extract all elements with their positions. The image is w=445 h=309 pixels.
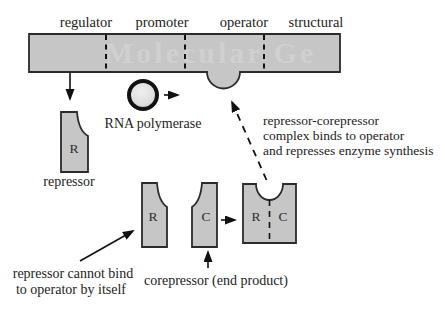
cannot-bind-arrow — [80, 231, 133, 261]
watermark-text: Molecular Ge — [105, 36, 316, 69]
gene-regulation-diagram: regulator promoter operator structural M… — [0, 0, 445, 309]
complex-c-letter: C — [278, 209, 287, 224]
corepressor-caption: corepressor (end product) — [144, 273, 288, 289]
repressor-letter: R — [69, 141, 78, 156]
complex-note-line3: and represses enzyme synthesis — [263, 143, 434, 158]
repressor-bottom-letter: R — [148, 209, 157, 224]
complex-to-operator-dashed-arrow — [232, 102, 267, 180]
region-label-regulator: regulator — [60, 14, 113, 30]
cannot-bind-line1: repressor cannot bind — [13, 266, 134, 281]
corepressor-letter: C — [201, 209, 210, 224]
region-label-structural: structural — [289, 14, 344, 30]
complex-note-line1: repressor-corepressor — [263, 113, 379, 128]
complex-note-line2: complex binds to operator — [263, 128, 405, 143]
diagram-canvas: regulator promoter operator structural M… — [0, 0, 445, 309]
region-label-promoter: promoter — [135, 14, 188, 30]
region-label-operator: operator — [220, 14, 268, 30]
rna-polymerase-icon — [129, 81, 157, 109]
rna-polymerase-label: RNA polymerase — [105, 116, 202, 131]
cannot-bind-line2: to operator by itself — [16, 282, 126, 297]
repressor-caption: repressor — [43, 174, 95, 189]
complex-r-letter: R — [251, 209, 260, 224]
